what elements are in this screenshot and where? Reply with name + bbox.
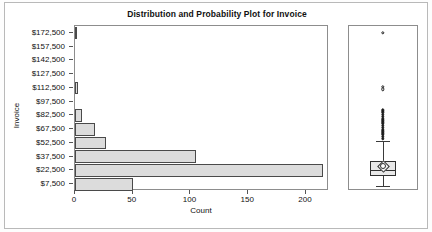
boxplot: [349, 26, 417, 189]
y-tick-label: $97,500: [36, 96, 65, 105]
x-axis-title: Count: [74, 206, 328, 215]
histogram-bar: [75, 123, 95, 136]
boxplot-panel: [348, 25, 418, 190]
histogram-bar: [75, 164, 323, 177]
y-tick-mark: [69, 169, 73, 170]
y-tick-label: $82,500: [36, 110, 65, 119]
y-tick-label: $22,500: [36, 165, 65, 174]
x-tick-mark: [305, 190, 306, 194]
y-tick-label: $7,500: [41, 179, 65, 188]
y-tick-label: $52,500: [36, 137, 65, 146]
y-tick-label: $67,500: [36, 124, 65, 133]
y-tick-mark: [69, 142, 73, 143]
boxplot-upper-cap: [376, 141, 390, 142]
y-tick-mark: [69, 156, 73, 157]
y-tick-mark: [69, 73, 73, 74]
chart-screenshot: Distribution and Probability Plot for In…: [0, 0, 432, 232]
boxplot-outlier: [381, 31, 384, 34]
boxplot-lower-whisker: [383, 176, 384, 186]
y-tick-mark: [69, 32, 73, 33]
y-tick-mark: [69, 46, 73, 47]
histogram-bar: [75, 27, 77, 40]
chart-title: Distribution and Probability Plot for In…: [5, 9, 429, 19]
y-tick-mark: [69, 114, 73, 115]
y-tick-mark: [69, 183, 73, 184]
histogram-bar: [75, 150, 196, 163]
histogram-bar: [75, 178, 133, 191]
y-tick-mark: [69, 87, 73, 88]
figure-frame: Distribution and Probability Plot for In…: [4, 2, 428, 229]
x-tick-mark: [132, 190, 133, 194]
x-tick-mark: [247, 190, 248, 194]
y-tick-label: $172,500: [32, 27, 65, 36]
boxplot-outlier: [381, 88, 384, 91]
y-tick-label: $142,500: [32, 55, 65, 64]
y-tick-mark: [69, 59, 73, 60]
x-tick-label: 0: [72, 195, 76, 204]
x-tick-mark: [74, 190, 75, 194]
histogram-bar: [75, 137, 106, 150]
y-tick-label: $157,500: [32, 41, 65, 50]
x-tick-mark: [189, 190, 190, 194]
y-tick-label: $112,500: [32, 82, 65, 91]
y-tick-label: $127,500: [32, 69, 65, 78]
x-tick-label: 50: [127, 195, 136, 204]
y-axis: Invoice $172,500$157,500$142,500$127,500…: [5, 25, 71, 190]
histogram-bars: [75, 26, 327, 189]
histogram-panel: [74, 25, 328, 190]
histogram-bar: [75, 82, 78, 95]
y-tick-label: $37,500: [36, 151, 65, 160]
boxplot-lower-cap: [376, 186, 390, 187]
boxplot-upper-whisker: [383, 141, 384, 161]
x-tick-label: 150: [240, 195, 253, 204]
x-tick-label: 200: [298, 195, 311, 204]
histogram-bar: [75, 109, 82, 122]
x-tick-label: 100: [183, 195, 196, 204]
y-axis-title: Invoice: [12, 86, 21, 146]
y-tick-mark: [69, 128, 73, 129]
y-tick-mark: [69, 101, 73, 102]
